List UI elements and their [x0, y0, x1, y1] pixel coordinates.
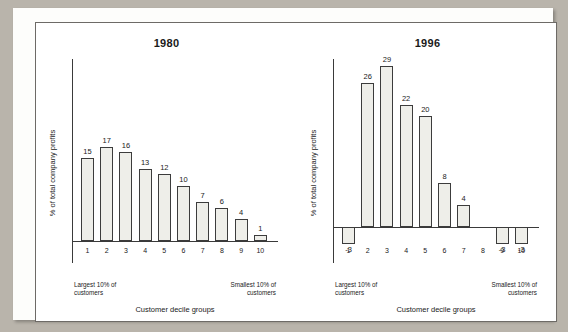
bar-value-label: 20: [413, 105, 437, 114]
bar-value-label: 1: [248, 224, 272, 233]
y-axis-label-1996: % of total company profits: [309, 98, 318, 248]
bar: [81, 158, 94, 241]
right-note-1996: Smallest 10% of customers: [475, 281, 537, 297]
bar-value-label: 10: [172, 175, 196, 184]
y-axis-line-1996: [333, 59, 334, 263]
bar: [380, 66, 393, 227]
screenshot-root: 1980 % of total company profits 15171613…: [0, 0, 568, 332]
bar: [100, 147, 113, 241]
bar: [215, 208, 228, 241]
bar: [400, 105, 413, 227]
bar-value-label: 8: [433, 172, 457, 181]
x-axis-line-1980: [72, 241, 278, 242]
panel-title-1980: 1980: [36, 37, 297, 49]
figure-card: 1980 % of total company profits 15171613…: [13, 8, 553, 320]
bar: [419, 116, 432, 227]
bar-value-label: 4: [452, 194, 476, 203]
bar-value-label: 6: [210, 197, 234, 206]
bar: [496, 227, 509, 244]
bar: [457, 205, 470, 227]
plot-area-1980: 1517161312107641: [72, 59, 278, 263]
plot-area-1996: -32629222084-3-3: [333, 59, 539, 263]
bar-value-label: 22: [394, 94, 418, 103]
bar: [361, 83, 374, 227]
bar-value-label: 4: [229, 208, 253, 217]
bar-value-label: 15: [76, 147, 100, 156]
bar: [254, 235, 267, 241]
bar: [158, 174, 171, 241]
bar-value-label: 29: [375, 55, 399, 64]
panel-title-1996: 1996: [297, 37, 558, 49]
left-note-1980: Largest 10% of customers: [74, 281, 136, 297]
x-axis-label-1996: Customer decile groups: [333, 305, 539, 314]
x-axis-label-1980: Customer decile groups: [72, 305, 278, 314]
bar-value-label: 26: [356, 72, 380, 81]
bar: [177, 186, 190, 242]
bar: [515, 227, 528, 244]
bar: [139, 169, 152, 241]
chart-panel-1980: 1980 % of total company profits 15171613…: [36, 23, 297, 323]
chart-panel-1996: 1996 % of total company profits -3262922…: [297, 23, 558, 323]
bar-value-label: 12: [152, 163, 176, 172]
bar: [342, 227, 355, 244]
bar: [438, 183, 451, 227]
y-axis-label-1980: % of total company profits: [48, 98, 57, 248]
bar: [196, 202, 209, 241]
bar-value-label: 16: [114, 141, 138, 150]
right-note-1980: Smallest 10% of customers: [214, 281, 276, 297]
x-tick-label: 10: [509, 247, 533, 254]
x-tick-label: 10: [248, 247, 272, 254]
y-axis-line-1980: [72, 59, 73, 263]
bar: [119, 152, 132, 241]
figure-frame: 1980 % of total company profits 15171613…: [35, 22, 557, 322]
left-note-1996: Largest 10% of customers: [335, 281, 397, 297]
bar: [235, 219, 248, 241]
